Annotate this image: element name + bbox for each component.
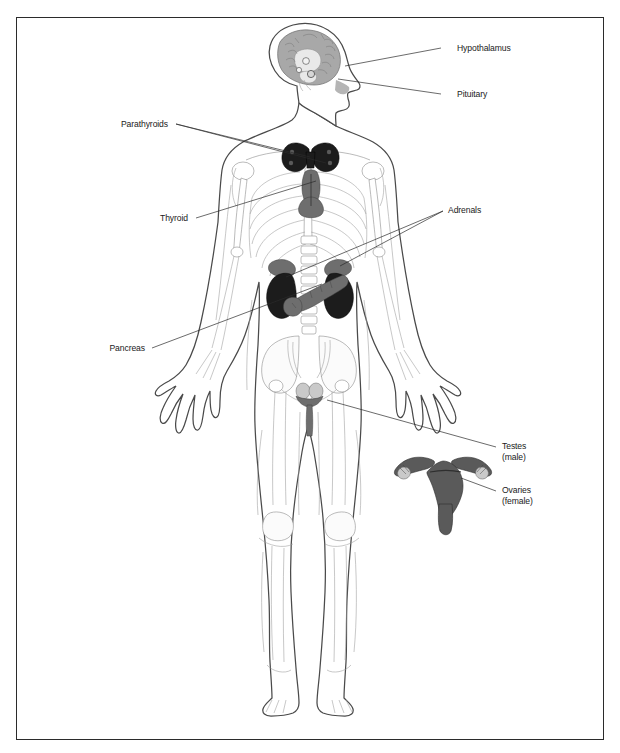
pituitary-marker xyxy=(307,70,314,77)
label-ovaries: Ovaries xyxy=(502,485,531,495)
label-pituitary: Pituitary xyxy=(457,89,488,99)
hypothalamus-marker-2 xyxy=(296,67,301,72)
label-pancreas: Pancreas xyxy=(109,343,145,353)
head-group xyxy=(269,24,360,126)
label-ovaries-sub: (female) xyxy=(502,496,533,506)
label-parathyroids: Parathyroids xyxy=(121,119,168,129)
leader-ovaries xyxy=(461,478,496,491)
label-adrenals: Adrenals xyxy=(448,205,481,215)
anatomy-illustration: Hypothalamus Pituitary Parathyroids Thyr… xyxy=(0,0,620,753)
label-hypothalamus: Hypothalamus xyxy=(457,43,511,53)
label-testes-sub: (male) xyxy=(502,452,526,462)
diagram-canvas: Hypothalamus Pituitary Parathyroids Thyr… xyxy=(0,0,620,753)
leader-hypothalamus xyxy=(345,48,441,66)
label-testes: Testes xyxy=(502,441,526,451)
uterus-organ xyxy=(394,457,491,535)
label-thyroid: Thyroid xyxy=(160,213,188,223)
hypothalamus-marker xyxy=(303,58,310,65)
